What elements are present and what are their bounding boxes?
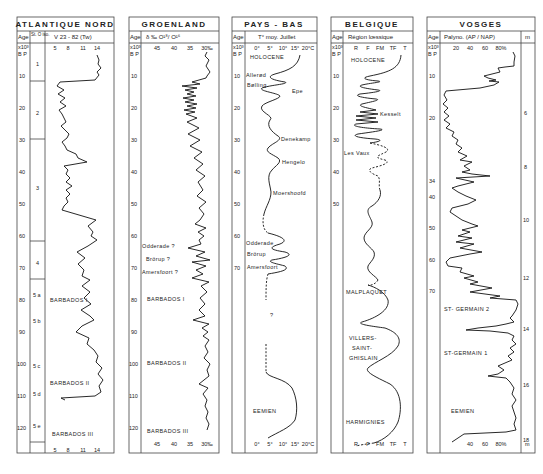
- annotation: HARMIGNIES: [346, 419, 385, 425]
- unit-label: x10³: [428, 44, 439, 50]
- svg-text:30: 30: [131, 137, 137, 143]
- series-line-dashed: [368, 280, 378, 285]
- svg-text:70: 70: [131, 265, 137, 271]
- series-line-dashed: [263, 214, 268, 233]
- annotation: EEMIEN: [253, 408, 277, 414]
- annotation: Allerød: [246, 72, 266, 78]
- x-tick: 8: [66, 45, 69, 51]
- unit-label: x10³: [332, 44, 343, 50]
- x-tick: 14: [94, 45, 100, 51]
- svg-text:6: 6: [524, 110, 527, 116]
- panel-title: BELGIQUE: [345, 20, 399, 29]
- svg-text:50: 50: [131, 201, 137, 207]
- series-line: [182, 52, 210, 430]
- svg-text:12: 12: [523, 275, 529, 281]
- y-axis: 10203440 506070: [429, 73, 435, 294]
- y-axis: 10203040 50607080 90100110120: [17, 73, 26, 431]
- series-line: [364, 190, 381, 280]
- svg-text:70: 70: [19, 265, 25, 271]
- x-tick-bottom: 5: [53, 447, 56, 453]
- age-header: Age: [18, 34, 29, 40]
- x-tick: 40: [467, 45, 473, 51]
- series-line-dashed: [370, 143, 388, 190]
- unit-label-bp: B P: [130, 51, 139, 57]
- panel-vosges: VOSGES Age Palyno. (AP / NAP) m x10³ B P…: [427, 17, 535, 453]
- x-tick: FM: [376, 45, 384, 51]
- svg-text:120: 120: [129, 425, 138, 431]
- x-tick: 30‰: [201, 45, 213, 51]
- annotation: Amersfoort: [247, 264, 278, 270]
- x-tick: 20: [453, 45, 459, 51]
- x-tick-bottom: 5°: [267, 441, 272, 447]
- svg-text:70: 70: [429, 288, 435, 294]
- panel-title: VOSGES: [460, 20, 503, 29]
- svg-text:5 d: 5 d: [33, 391, 41, 397]
- svg-text:8: 8: [524, 164, 527, 170]
- svg-text:10: 10: [234, 73, 240, 79]
- series-line-dashed: [356, 443, 374, 446]
- x-tick: 60: [482, 45, 488, 51]
- annotation: Kesselt: [380, 111, 401, 117]
- panel-title: ATLANTIQUE NORD: [15, 20, 114, 29]
- svg-text:40: 40: [429, 194, 435, 200]
- svg-text:120: 120: [17, 425, 26, 431]
- annotation: Brörup: [247, 251, 266, 257]
- annotation: MALPLAQUET: [346, 289, 387, 295]
- svg-text:20: 20: [333, 105, 339, 111]
- y-axis: 10203040 50607080 90100110120: [129, 73, 138, 431]
- svg-text:20: 20: [19, 105, 25, 111]
- svg-text:20: 20: [234, 105, 240, 111]
- x-tick-bottom: 0°: [254, 441, 259, 447]
- x-tick: F: [366, 45, 370, 51]
- x-tick-bottom: T: [403, 441, 407, 447]
- svg-text:40: 40: [333, 169, 339, 175]
- x-tick: 10°: [279, 45, 287, 51]
- annotation: SAINT-: [352, 345, 372, 351]
- annotation: BARBADOS II: [50, 380, 90, 386]
- column-header: V 23 - 82 (Tw): [54, 34, 92, 40]
- x-tick-bottom: 11: [80, 447, 86, 453]
- column-header: δ ‰ O¹⁸/ O¹⁶: [146, 34, 181, 40]
- x-tick: R: [354, 45, 358, 51]
- svg-text:50: 50: [234, 201, 240, 207]
- x-tick: 20°C: [302, 45, 314, 51]
- svg-text:20: 20: [429, 115, 435, 121]
- annotation: Hengelo: [282, 159, 305, 165]
- annotation: EEMIEN: [451, 408, 475, 414]
- svg-text:70: 70: [234, 265, 240, 271]
- x-tick: 11: [80, 45, 86, 51]
- x-tick-bottom: 80%: [495, 441, 506, 447]
- annotation: BARBADOS I: [50, 297, 88, 303]
- svg-text:60: 60: [19, 233, 25, 239]
- x-tick-bottom: 40: [171, 441, 177, 447]
- panel-pays-bas: PAYS - BAS Age T° moy. Juillet x10³ B P …: [232, 17, 317, 453]
- x-tick: 5°: [267, 45, 272, 51]
- annotation: HOLOCENE: [250, 54, 284, 60]
- series-line: [266, 372, 297, 438]
- x-tick-bottom: 8: [66, 447, 69, 453]
- annotation: Odderade ?: [142, 243, 175, 249]
- svg-text:30: 30: [234, 137, 240, 143]
- svg-text:100: 100: [17, 361, 26, 367]
- column-header: Palyno. (AP / NAP): [444, 34, 495, 40]
- svg-text:4: 4: [36, 260, 39, 266]
- age-header: Age: [233, 34, 244, 40]
- annotation: GHISLAIN: [349, 355, 378, 361]
- x-tick-bottom: 14: [94, 447, 100, 453]
- x-tick-bottom: 45: [154, 441, 160, 447]
- panel-belgique: BELGIQUE Age Région lœssique x10³ B P R …: [331, 17, 413, 453]
- svg-text:14: 14: [523, 326, 529, 332]
- unit-label-bp: B P: [428, 51, 437, 57]
- annotation: HOLOCENE: [351, 57, 385, 63]
- stage-header: St. O iso.: [31, 32, 50, 37]
- svg-text:5 c: 5 c: [33, 363, 41, 369]
- svg-text:30: 30: [19, 137, 25, 143]
- x-tick: 0°: [254, 45, 259, 51]
- depth-axis: 6 8 10 12 14 16 18: [523, 110, 529, 443]
- svg-text:1: 1: [36, 61, 39, 67]
- svg-text:80: 80: [19, 297, 25, 303]
- unit-label-bp: B P: [332, 51, 341, 57]
- series-line: [57, 55, 103, 400]
- svg-text:40: 40: [19, 169, 25, 175]
- svg-text:110: 110: [129, 393, 138, 399]
